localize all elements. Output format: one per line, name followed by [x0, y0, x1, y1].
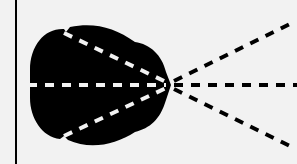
light-ray-diagram: [0, 0, 297, 164]
